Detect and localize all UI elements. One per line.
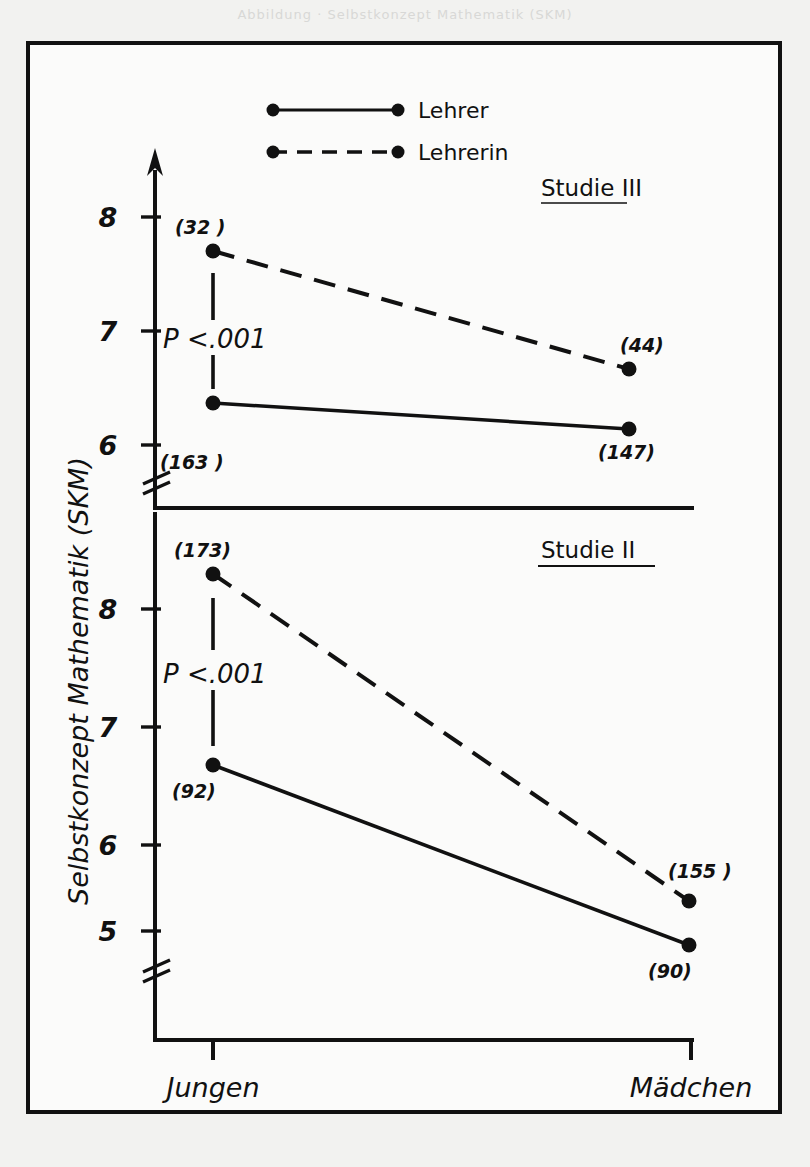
- y-tick-label-7-upper: 7: [99, 316, 118, 347]
- significance-label-upper: P <.001: [163, 324, 267, 354]
- legend: Lehrer Lehrerin: [267, 98, 509, 165]
- y-tick-label-8-upper: 8: [99, 202, 118, 233]
- y-axis-title: Selbstkonzept Mathematik (SKM): [63, 457, 94, 905]
- y-ticks-lower: 8 7 6 5: [99, 594, 161, 947]
- point-lehrer-maedchen-upper: [622, 422, 637, 437]
- panel-title-studie-iii: Studie III: [541, 175, 642, 201]
- y-tick-label-7-lower: 7: [99, 712, 118, 743]
- point-lehrer-maedchen-lower: [682, 938, 697, 953]
- value-label-lehrer-maedchen-upper: (147): [598, 441, 655, 463]
- value-label-lehrer-maedchen-lower: (90): [648, 960, 692, 982]
- point-lehrerin-maedchen-upper: [622, 362, 637, 377]
- panel-studie-iii: 8 7 6 (32 ) (44) (163 ) (147) P <.001 St…: [99, 148, 694, 508]
- line-lehrer-upper: [213, 403, 629, 429]
- y-tick-label-6-lower: 6: [99, 830, 118, 861]
- y-tick-label-6-upper: 6: [99, 430, 118, 461]
- point-lehrer-jungen-lower: [206, 758, 221, 773]
- point-lehrerin-jungen-lower: [206, 567, 221, 582]
- legend-label-lehrer: Lehrer: [418, 98, 489, 123]
- y-tick-label-5-lower: 5: [99, 916, 118, 947]
- value-label-lehrer-jungen-lower: (92): [172, 780, 216, 802]
- significance-label-lower: P <.001: [163, 659, 267, 689]
- legend-label-lehrerin: Lehrerin: [418, 140, 509, 165]
- line-lehrer-lower: [213, 765, 689, 945]
- x-axis-label-maedchen: Mädchen: [630, 1072, 753, 1103]
- value-label-lehrerin-jungen-lower: (173): [174, 539, 231, 561]
- value-label-lehrerin-maedchen-lower: (155 ): [668, 860, 732, 882]
- point-lehrer-jungen-upper: [206, 396, 221, 411]
- point-lehrerin-maedchen-lower: [682, 894, 697, 909]
- panel-studie-ii: 8 7 6 5 (173) (155 ) (92) (90) P <.001 S…: [99, 512, 732, 1060]
- point-lehrerin-jungen-upper: [206, 244, 221, 259]
- legend-item-lehrer: Lehrer: [267, 98, 490, 123]
- panel-title-studie-ii: Studie II: [541, 537, 635, 563]
- value-label-lehrer-jungen-upper: (163 ): [160, 451, 224, 473]
- value-label-lehrerin-jungen-upper: (32 ): [175, 216, 225, 238]
- legend-item-lehrerin: Lehrerin: [267, 140, 509, 165]
- x-axis-label-jungen: Jungen: [161, 1072, 259, 1103]
- line-lehrerin-lower: [213, 574, 689, 901]
- y-ticks-upper: 8 7 6: [99, 202, 161, 461]
- y-tick-label-8-lower: 8: [99, 594, 118, 625]
- value-label-lehrerin-maedchen-upper: (44): [620, 334, 664, 356]
- chart-canvas: Lehrer Lehrerin Selbstkonzept Mathematik…: [0, 0, 810, 1167]
- line-lehrerin-upper: [213, 251, 629, 369]
